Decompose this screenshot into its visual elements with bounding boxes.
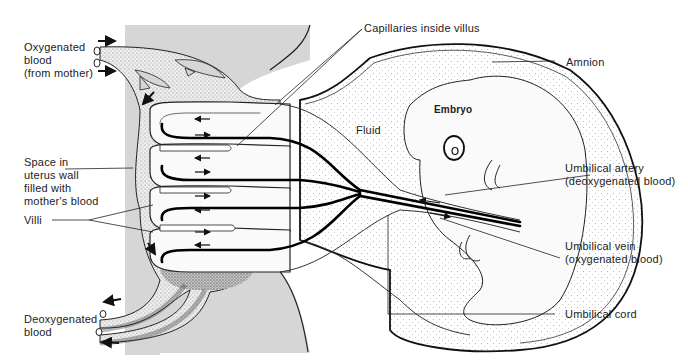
label-line: Space in — [24, 156, 99, 169]
label-fluid: Fluid — [356, 124, 381, 137]
label-amnion: Amnion — [566, 56, 605, 69]
label-line: filled with — [24, 182, 99, 195]
label-oxygenated-blood: Oxygenated blood (from mother) — [24, 41, 93, 80]
label-umbilical-cord: Umbilical cord — [565, 308, 637, 321]
label-line: Deoxygenated — [24, 313, 97, 326]
label-line: Oxygenated — [24, 41, 93, 54]
label-line: (deoxygenated blood) — [565, 175, 675, 188]
label-line: blood — [24, 326, 97, 339]
label-umbilical-artery: Umbilical artery (deoxygenated blood) — [565, 162, 675, 188]
label-line: uterus wall — [24, 169, 99, 182]
label-line: mother's blood — [24, 195, 99, 208]
label-umbilical-vein: Umbilical vein (oxygenated blood) — [565, 240, 663, 266]
label-capillaries: Capillaries inside villus — [364, 22, 480, 35]
label-deoxygenated-blood: Deoxygenated blood — [24, 313, 97, 339]
label-line: Umbilical vein — [565, 240, 663, 253]
label-villi: Villi — [24, 214, 42, 227]
label-line: (from mother) — [24, 67, 93, 80]
placenta-diagram: Oxygenated blood (from mother) Space in … — [0, 0, 688, 364]
label-line: Umbilical artery — [565, 162, 675, 175]
label-line: blood — [24, 54, 93, 67]
label-embryo: Embryo — [434, 103, 472, 116]
label-line: (oxygenated blood) — [565, 253, 663, 266]
label-space-in-uterus: Space in uterus wall filled with mother'… — [24, 156, 99, 208]
